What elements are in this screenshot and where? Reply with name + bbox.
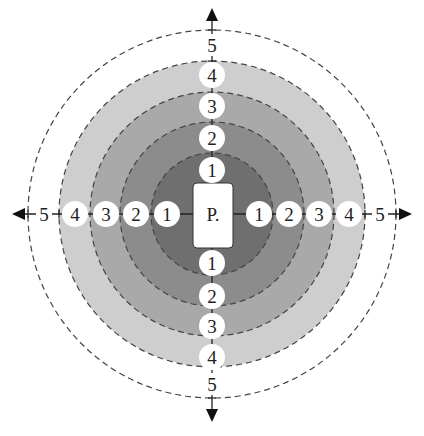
label-left-5: 5: [39, 204, 49, 225]
label-up-3: 3: [207, 96, 217, 117]
arrow-up-icon: [206, 8, 218, 21]
label-up-4: 4: [207, 65, 217, 86]
label-down-2: 2: [207, 286, 217, 307]
label-down-3: 3: [207, 316, 217, 337]
label-left-1: 1: [162, 204, 172, 225]
label-down-1: 1: [207, 253, 217, 274]
label-right-5: 5: [375, 204, 385, 225]
label-right-3: 3: [314, 204, 324, 225]
label-right-2: 2: [284, 204, 294, 225]
label-right-1: 1: [254, 204, 264, 225]
label-left-2: 2: [131, 204, 141, 225]
label-left-4: 4: [70, 204, 80, 225]
label-right-4: 4: [344, 204, 354, 225]
label-left-3: 3: [101, 204, 111, 225]
label-down-5: 5: [207, 374, 217, 395]
label-down-4: 4: [207, 347, 217, 368]
arrow-left-icon: [12, 208, 25, 220]
label-up-5: 5: [207, 35, 217, 56]
arrow-right-icon: [399, 208, 412, 220]
labels-down: 1 2 3 4 5: [199, 250, 225, 395]
label-up-1: 1: [207, 160, 217, 181]
arrow-down-icon: [206, 409, 218, 422]
label-up-2: 2: [207, 128, 217, 149]
concentric-zone-diagram: P. 1 2 3 4 5 1 2 3 4 5 1 2 3 4 5: [0, 0, 424, 436]
center-label: P.: [206, 204, 219, 225]
